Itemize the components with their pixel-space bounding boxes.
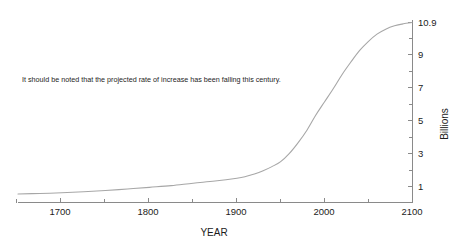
x-tick-label-1700: 1700 [49, 206, 70, 217]
y-tick-label-9: 9 [418, 49, 423, 60]
y-axis-minor-ticks [409, 38, 413, 170]
y-tick-label-7: 7 [418, 82, 423, 93]
y-tick-label-1: 1 [418, 181, 423, 192]
chart-annotation: It should be noted that the projected ra… [22, 75, 281, 84]
y-tick-label-10-9: 10.9 [418, 17, 437, 28]
x-axis-major-ticks [61, 198, 413, 203]
population-curve [18, 23, 412, 194]
x-axis-title: YEAR [200, 227, 227, 238]
y-tick-label-5: 5 [418, 115, 423, 126]
x-tick-label-1900: 1900 [225, 206, 246, 217]
population-chart: 1700 1800 1900 2000 2100 1 3 5 7 9 10.9 [0, 0, 459, 246]
x-tick-label-2100: 2100 [401, 206, 422, 217]
x-tick-label-1800: 1800 [137, 206, 158, 217]
x-tick-label-2000: 2000 [313, 206, 334, 217]
chart-canvas: 1700 1800 1900 2000 2100 1 3 5 7 9 10.9 [0, 0, 459, 246]
x-axis-minor-ticks [17, 199, 369, 203]
y-axis-title: Billions [439, 108, 450, 140]
y-tick-label-3: 3 [418, 148, 423, 159]
